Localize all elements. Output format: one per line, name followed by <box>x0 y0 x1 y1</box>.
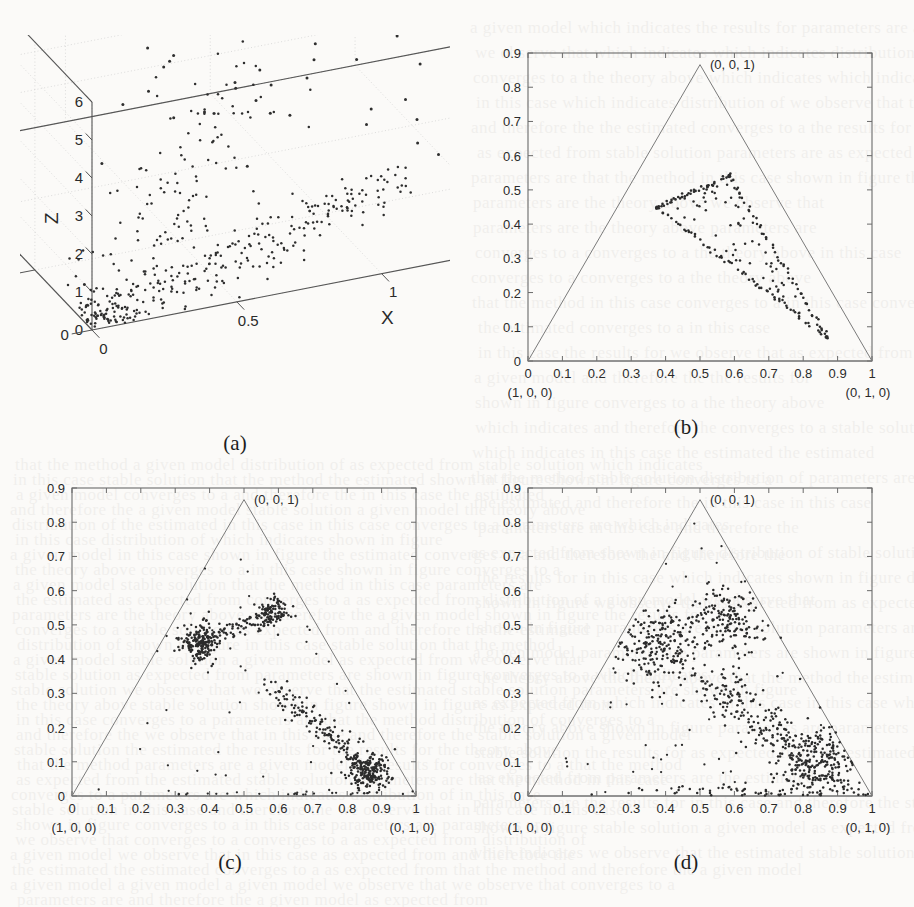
plot-c-ternary-scatter: 00.10.20.30.40.50.60.70.80.9100.10.20.30… <box>20 470 440 842</box>
panel-d-ytick: 0.5 <box>503 618 521 633</box>
panel-d-corner-label-left: (1, 0, 0) <box>508 820 553 835</box>
panel-c-ytick: 0.5 <box>47 618 65 633</box>
panel-a-x-axis-label: X <box>381 307 394 328</box>
panel-b-xtick: 1 <box>868 366 875 381</box>
panel-d-xtick: 0.8 <box>794 801 812 816</box>
panel-c-xtick: 1 <box>412 801 419 816</box>
panel-d-points <box>565 522 869 796</box>
panel-c-xtick: 0.2 <box>132 801 150 816</box>
panel-d-ytick: 0.9 <box>503 481 521 496</box>
panel-d-ytick: 0.7 <box>503 549 521 564</box>
panel-d-xtick: 1 <box>868 801 875 816</box>
panel-b: 00.10.20.30.40.50.60.70.80.9100.10.20.30… <box>476 35 896 453</box>
panel-d-xtick: 0.6 <box>725 801 743 816</box>
panel-a-ytick: 0 <box>61 326 69 343</box>
panel-d-xtick: 0.4 <box>657 801 675 816</box>
panel-d-xtick: 0 <box>524 801 531 816</box>
panel-d-xtick: 0.7 <box>760 801 778 816</box>
panel-b-ytick: 0.4 <box>503 217 521 232</box>
plot-d-ternary-scatter: 00.10.20.30.40.50.60.70.80.9100.10.20.30… <box>476 470 896 842</box>
panel-d-ytick: 0.6 <box>503 584 521 599</box>
panel-c-simplex-triangle <box>72 500 416 796</box>
panel-b-xtick: 0.5 <box>691 366 709 381</box>
panel-c-ytick: 0.1 <box>47 755 65 770</box>
panel-b-corner-label-right: (0, 1, 0) <box>846 385 891 400</box>
panel-b-corner-label-top: (0, 0, 1) <box>710 57 755 72</box>
panel-a-ztick: 6 <box>75 93 83 110</box>
panel-b-ytick: 0 <box>514 354 521 369</box>
panel-b-xtick: 0 <box>524 366 531 381</box>
panel-c-ytick: 0.2 <box>47 721 65 736</box>
panel-d: 00.10.20.30.40.50.60.70.80.9100.10.20.30… <box>476 470 896 888</box>
panel-b-ytick: 0.2 <box>503 286 521 301</box>
panel-c-ytick: 0.3 <box>47 686 65 701</box>
plot-a-3d-scatter: 012345600.511.520246ZXY <box>20 35 450 435</box>
panel-c-ytick: 0.7 <box>47 549 65 564</box>
panel-b-ytick: 0.7 <box>503 114 521 129</box>
panel-c-ytick: 0.6 <box>47 584 65 599</box>
panel-c-corner-label-right: (0, 1, 0) <box>390 820 435 835</box>
panel-d-ytick: 0.3 <box>503 686 521 701</box>
panel-c-ytick: 0.4 <box>47 652 65 667</box>
panel-a-ztick: 3 <box>75 207 83 224</box>
panel-a-caption: (a) <box>20 431 450 456</box>
panel-a-xtick: 1 <box>389 283 397 300</box>
panel-c-ytick: 0.8 <box>47 515 65 530</box>
panel-d-ytick: 0.4 <box>503 652 521 667</box>
panel-a-ztick: 5 <box>75 131 83 148</box>
panel-d-corner-label-right: (0, 1, 0) <box>846 820 891 835</box>
panel-b-points <box>655 172 829 339</box>
panel-c-xtick: 0.3 <box>166 801 184 816</box>
panel-d-ytick: 0.8 <box>503 515 521 530</box>
panel-a-ztick: 1 <box>75 283 83 300</box>
panel-d-ytick: 0.2 <box>503 721 521 736</box>
panel-d-xtick: 0.3 <box>622 801 640 816</box>
panel-c-points <box>98 558 414 795</box>
panel-a-xtick: 0 <box>99 340 107 357</box>
panel-d-ytick: 0.1 <box>503 755 521 770</box>
panel-b-xtick: 0.6 <box>725 366 743 381</box>
panel-d-xtick: 0.1 <box>553 801 571 816</box>
panel-b-ytick: 0.9 <box>503 46 521 61</box>
panel-c: 00.10.20.30.40.50.60.70.80.9100.10.20.30… <box>20 470 440 888</box>
panel-b-ytick: 0.8 <box>503 80 521 95</box>
panel-d-corner-label-top: (0, 0, 1) <box>710 492 755 507</box>
panel-a-xtick: 0.5 <box>238 312 259 329</box>
panel-c-corner-label-top: (0, 0, 1) <box>254 492 299 507</box>
panel-c-caption: (c) <box>20 850 440 875</box>
panel-c-xtick: 0 <box>68 801 75 816</box>
panel-d-xtick: 0.5 <box>691 801 709 816</box>
figure-container: 012345600.511.520246ZXY(a)00.10.20.30.40… <box>0 0 914 907</box>
panel-b-ytick: 0.6 <box>503 149 521 164</box>
panel-c-xtick: 0.7 <box>304 801 322 816</box>
panel-c-ytick: 0 <box>58 789 65 804</box>
panel-b-xtick: 0.4 <box>657 366 675 381</box>
plot-b-ternary-scatter: 00.10.20.30.40.50.60.70.80.9100.10.20.30… <box>476 35 896 407</box>
panel-b-xtick: 0.9 <box>829 366 847 381</box>
panel-b-caption: (b) <box>476 415 896 440</box>
panel-b-xtick: 0.2 <box>588 366 606 381</box>
panel-d-caption: (d) <box>476 850 896 875</box>
panel-b-xtick: 0.8 <box>794 366 812 381</box>
panel-b-simplex-triangle <box>528 65 872 361</box>
panel-a: 012345600.511.520246ZXY(a) <box>20 35 450 475</box>
panel-b-xtick: 0.7 <box>760 366 778 381</box>
panel-b-corner-label-left: (1, 0, 0) <box>508 385 553 400</box>
panel-c-xtick: 0.9 <box>373 801 391 816</box>
panel-b-xtick: 0.1 <box>553 366 571 381</box>
panel-b-ytick: 0.5 <box>503 183 521 198</box>
panel-c-ytick: 0.9 <box>47 481 65 496</box>
panel-a-ztick: 0 <box>75 321 83 338</box>
panel-a-z-axis-label: Z <box>41 212 62 224</box>
panel-d-xtick: 0.2 <box>588 801 606 816</box>
panel-b-ytick: 0.1 <box>503 320 521 335</box>
panel-c-xtick: 0.8 <box>338 801 356 816</box>
panel-c-xtick: 0.6 <box>269 801 287 816</box>
panel-d-ytick: 0 <box>514 789 521 804</box>
panel-b-xtick: 0.3 <box>622 366 640 381</box>
panel-c-xtick: 0.5 <box>235 801 253 816</box>
panel-c-xtick: 0.1 <box>97 801 115 816</box>
panel-c-xtick: 0.4 <box>201 801 219 816</box>
panel-d-xtick: 0.9 <box>829 801 847 816</box>
panel-a-ztick: 4 <box>75 169 83 186</box>
